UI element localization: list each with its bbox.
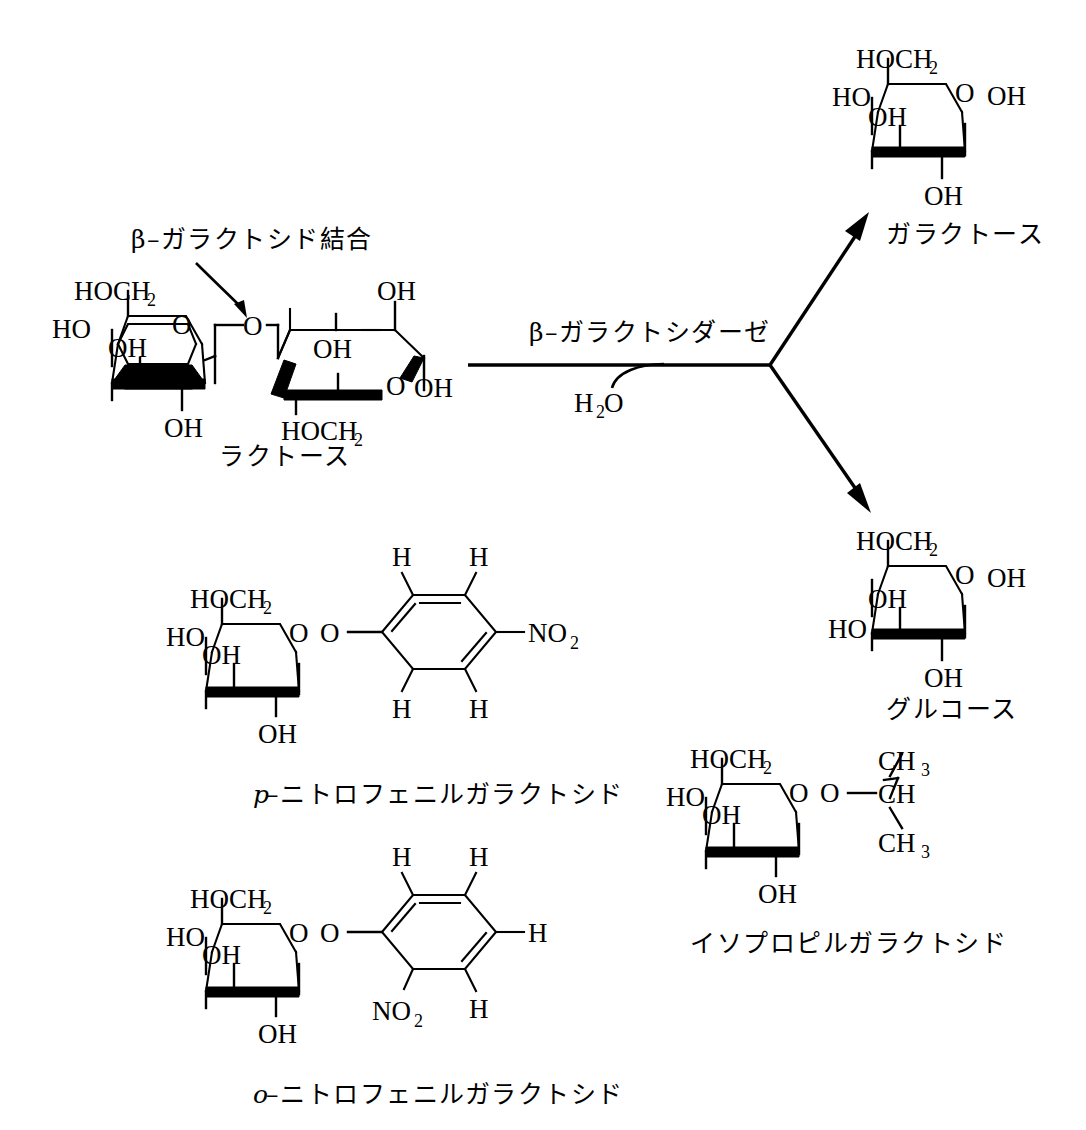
galactose-c4-oh-label: HO	[832, 82, 871, 112]
galactose-ring-o-label: O	[955, 78, 975, 108]
p-nitrophenyl-galactoside-molecule: HOCH 2 HO O OH OH O H H H H	[166, 542, 624, 809]
ipg-c4-oh-label: HO	[666, 782, 705, 812]
ipg-methyl-top-sub: 3	[921, 760, 930, 780]
ipg-methyl-bottom-sub: 3	[921, 842, 930, 862]
lactose-glucose-ring: O OH OH OH HOCH 2	[267, 276, 453, 450]
onp-c2-oh-label: OH	[258, 1019, 297, 1049]
ipg-c3-oh-label: OH	[702, 800, 741, 830]
onp-c6-label: HOCH	[190, 884, 267, 914]
ipg-methyl-bottom-label: CH	[878, 828, 916, 858]
glucose-ring-o-label: O	[955, 560, 975, 590]
glucose-name-label: グルコース	[886, 695, 1018, 724]
pnp-glycosidic-o-label: O	[320, 618, 340, 648]
pnp-c6-sub: 2	[263, 598, 272, 618]
pnp-benzene-ring: H H H H NO 2	[382, 542, 579, 724]
lactose-glc-c3-oh-label: OH	[377, 276, 416, 306]
onp-ring-h-2: H	[469, 842, 489, 872]
onp-nitro-sub: 2	[414, 1011, 423, 1031]
water-o: O	[604, 388, 624, 418]
diagram-canvas: HOCH 2 HO O OH OH O	[0, 0, 1086, 1130]
ipg-ring-o-label: O	[789, 778, 809, 808]
glucose-c2-oh-label: OH	[924, 663, 963, 693]
onp-c4-oh-label: HO	[166, 922, 205, 952]
lactose-glc-anomeric-oh-label: OH	[414, 373, 453, 403]
galactose-c3-oh-label: OH	[868, 102, 907, 132]
lactose-gal-c3-oh-label: OH	[108, 333, 147, 363]
reaction-scheme: HOCH 2 HO O OH OH O	[0, 0, 1086, 1130]
onp-c3-oh-label: OH	[202, 940, 241, 970]
glucose-c6-label: HOCH	[856, 526, 933, 556]
pnp-ring-h-2: H	[469, 542, 489, 572]
glycosidic-bond-callout-label: β–ガラクトシド結合	[131, 225, 373, 254]
glucose-molecule: HOCH 2 HO O OH OH OH グルコース	[828, 526, 1026, 724]
onp-ring-h-4: H	[469, 994, 489, 1024]
onp-c6-sub: 2	[263, 898, 272, 918]
pnp-ring-o-label: O	[289, 618, 309, 648]
glucose-c3-oh-label: OH	[868, 584, 907, 614]
pnp-nitro-label: NO	[528, 618, 567, 648]
lactose-gal-c2-oh-label: OH	[164, 413, 203, 443]
lactose-glc-c2-oh-label: OH	[313, 334, 352, 364]
pnp-c4-oh-label: HO	[166, 622, 205, 652]
enzyme-label: β–ガラクトシダーゼ	[529, 318, 771, 347]
glycosidic-bond-callout: β–ガラクトシド結合	[131, 225, 373, 318]
galactose-anomeric-oh-label: OH	[987, 81, 1026, 111]
glucose-c6-sub: 2	[929, 540, 938, 560]
glucose-c4-oh-label: HO	[828, 614, 867, 644]
galactose-c6-sub: 2	[929, 58, 938, 78]
pnp-nitro-sub: 2	[570, 633, 579, 653]
galactose-c2-oh-label: OH	[924, 181, 963, 211]
galactose-name-label: ガラクトース	[886, 220, 1044, 249]
onp-nitro-label: NO	[372, 996, 411, 1026]
reaction-arrow: H 2 O β–ガラクトシダーゼ	[468, 212, 871, 513]
pnp-c6-label: HOCH	[190, 584, 267, 614]
lactose-glc-c6-sub: 2	[354, 430, 363, 450]
ipg-c6-sub: 2	[763, 758, 772, 778]
pnp-c3-oh-label: OH	[202, 640, 241, 670]
onp-name-label: –ニトロフェニルガラクトシド	[266, 1080, 624, 1109]
isopropyl-galactoside-molecule: HOCH 2 HO O OH OH O CH CH 3 CH 3 イソプロピルガ…	[666, 744, 1007, 958]
lactose-gal-ring-o-label: O	[172, 310, 192, 340]
pnp-ring-h-1: H	[392, 542, 412, 572]
ipg-name-label: イソプロピルガラクトシド	[690, 929, 1007, 958]
onp-ring-h-1: H	[392, 842, 412, 872]
glucose-anomeric-oh-label: OH	[987, 563, 1026, 593]
pnp-name-label: –ニトロフェニルガラクトシド	[266, 780, 624, 809]
onp-benzene-ring: H H H H NO 2	[372, 842, 548, 1031]
lactose-gal-c4-oh-label: HO	[52, 314, 91, 344]
galactose-c6-label: HOCH	[856, 44, 933, 74]
o-nitrophenyl-galactoside-molecule: HOCH 2 HO O OH OH O H H H H	[166, 842, 624, 1109]
onp-ring-o-label: O	[289, 918, 309, 948]
lactose-galactose-ring: HOCH 2 HO O OH OH	[52, 276, 243, 443]
lactose-name-label: ラクトース	[219, 442, 351, 471]
pnp-ring-h-3: H	[392, 694, 412, 724]
pnp-c2-oh-label: OH	[258, 719, 297, 749]
lactose-gal-c6-label: HOCH	[74, 276, 151, 306]
ipg-c6-label: HOCH	[690, 744, 767, 774]
onp-glycosidic-o-label: O	[320, 918, 340, 948]
ipg-methyl-top-label: CH	[878, 746, 916, 776]
water-label: H	[574, 388, 594, 418]
ipg-c2-oh-label: OH	[758, 879, 797, 909]
ipg-glycosidic-o-label: O	[820, 778, 840, 808]
onp-ring-h-3: H	[528, 918, 548, 948]
pnp-ring-h-4: H	[469, 694, 489, 724]
lactose-gal-c6-sub: 2	[147, 290, 156, 310]
lactose-glc-ring-o-label: O	[386, 371, 406, 401]
